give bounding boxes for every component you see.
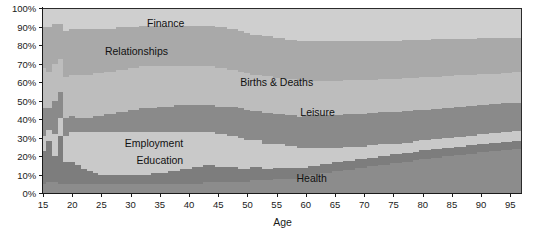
chart-figure: 0%10%20%30%40%50%60%70%80%90%100% Health…	[0, 0, 555, 242]
x-axis-tick-label: 50	[242, 199, 253, 210]
y-axis-tick-labels: 0%10%20%30%40%50%60%70%80%90%100%	[0, 0, 36, 242]
x-axis-tick-label: 25	[96, 199, 107, 210]
x-axis-tick-label: 55	[271, 199, 282, 210]
plot-area	[43, 8, 522, 193]
x-axis-tick-label: 85	[447, 199, 458, 210]
x-axis-tick-label: 15	[38, 199, 49, 210]
x-axis-tick-label: 60	[301, 199, 312, 210]
x-axis-tick	[131, 193, 132, 197]
y-axis-tick-label: 80%	[17, 40, 36, 51]
x-axis-tick	[510, 193, 511, 197]
stacked-area-svg	[43, 9, 521, 193]
x-axis-tick-label: 20	[67, 199, 78, 210]
x-axis-tick	[189, 193, 190, 197]
x-axis-tick	[423, 193, 424, 197]
x-axis-tick-label: 95	[505, 199, 516, 210]
y-axis-tick-label: 50%	[17, 95, 36, 106]
x-axis-tick-label: 80	[417, 199, 428, 210]
x-axis-tick	[218, 193, 219, 197]
y-axis-tick-label: 60%	[17, 77, 36, 88]
x-axis-tick-label: 90	[476, 199, 487, 210]
y-axis-tick-label: 100%	[12, 3, 36, 14]
x-axis-tick	[481, 193, 482, 197]
x-axis-tick-label: 40	[184, 199, 195, 210]
x-axis-tick	[306, 193, 307, 197]
x-axis-title: Age	[273, 216, 292, 228]
x-axis-tick	[72, 193, 73, 197]
x-axis-tick	[452, 193, 453, 197]
x-axis-tick	[277, 193, 278, 197]
x-axis-tick-label: 30	[125, 199, 136, 210]
y-axis-tick-label: 10%	[17, 169, 36, 180]
y-axis-tick-label: 20%	[17, 151, 36, 162]
x-axis-tick-label: 35	[155, 199, 166, 210]
x-axis-tick	[393, 193, 394, 197]
x-axis-tick	[335, 193, 336, 197]
x-axis-tick-label: 65	[330, 199, 341, 210]
x-axis-tick	[160, 193, 161, 197]
x-axis-tick-label: 45	[213, 199, 224, 210]
x-axis-tick	[247, 193, 248, 197]
x-axis-tick	[101, 193, 102, 197]
y-axis-tick-label: 70%	[17, 58, 36, 69]
x-axis-tick	[43, 193, 44, 197]
y-axis-tick-label: 0%	[22, 188, 36, 199]
y-axis-tick-label: 90%	[17, 21, 36, 32]
x-axis-tick	[364, 193, 365, 197]
y-axis-tick-label: 30%	[17, 132, 36, 143]
y-axis-tick-label: 40%	[17, 114, 36, 125]
x-axis-tick-label: 70	[359, 199, 370, 210]
x-axis-tick-label: 75	[388, 199, 399, 210]
